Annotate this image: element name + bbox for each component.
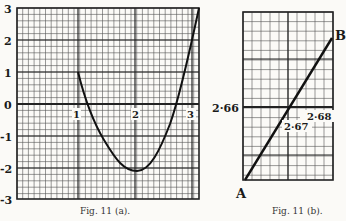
y-label-3: 3	[4, 3, 12, 16]
y-label-2: 2	[4, 35, 12, 48]
fig-a-y-labels: 3 2 1 0 -1 -2 -3	[0, 0, 15, 221]
y-label-0: 0	[4, 99, 12, 112]
y-label-1: 1	[4, 67, 12, 80]
y-label-neg1: -1	[0, 131, 12, 144]
fig-b-point-a: A	[235, 186, 247, 201]
fig-b-label-267: 2·67	[284, 121, 308, 132]
y-label-neg2: -2	[0, 163, 12, 176]
figure-canvas: 3 2 1 0 -1 -2 -3 1 2 3 Fig. 11 (a). 2·66…	[0, 0, 346, 221]
fig-b-point-b: B	[335, 28, 346, 43]
fig-b-caption: Fig. 11 (b).	[272, 206, 323, 216]
fig-a-curve	[78, 8, 199, 171]
y-label-neg3: -3	[0, 194, 12, 207]
x-label-3: 3	[187, 109, 194, 120]
fig-a-caption: Fig. 11 (a).	[80, 206, 130, 216]
fig-b-axis-label: 2·66	[212, 102, 239, 115]
x-label-2: 2	[132, 109, 139, 120]
x-label-1: 1	[73, 109, 80, 120]
fig-b-major-lines	[243, 12, 333, 180]
fig-b-label-268: 2·68	[307, 111, 331, 122]
